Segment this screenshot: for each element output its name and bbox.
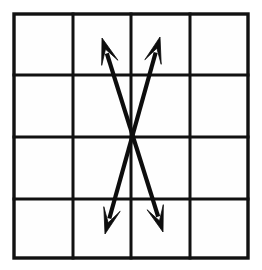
grid-arrows-diagram: [0, 0, 262, 270]
figure-root: [0, 0, 262, 270]
